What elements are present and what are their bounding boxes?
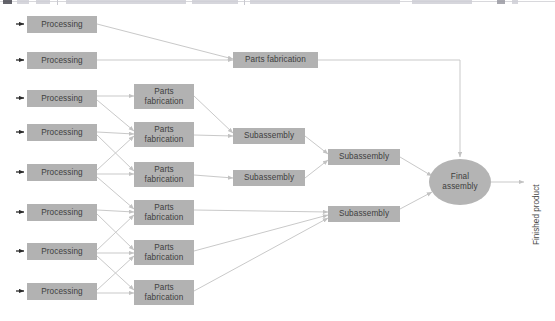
- node-processing-1[interactable]: Processing: [27, 16, 97, 33]
- node-processing-2[interactable]: Processing: [27, 52, 97, 69]
- node-subassembly-3[interactable]: Subassembly: [328, 149, 400, 165]
- node-processing-6[interactable]: Processing: [27, 204, 97, 221]
- node-parts-fabrication-6[interactable]: Parts fabrication: [134, 280, 194, 305]
- node-processing-4[interactable]: Processing: [27, 124, 97, 141]
- node-processing-7[interactable]: Processing: [27, 243, 97, 260]
- node-processing-3[interactable]: Processing: [27, 90, 97, 107]
- node-parts-fabrication-5[interactable]: Parts fabrication: [134, 240, 194, 265]
- label-finished-product: Finished product: [532, 184, 541, 245]
- node-processing-8[interactable]: Processing: [27, 283, 97, 300]
- node-final-assembly[interactable]: Final assembly: [429, 159, 491, 205]
- node-subassembly-2[interactable]: Subassembly: [233, 170, 305, 186]
- node-parts-fabrication-4[interactable]: Parts fabrication: [134, 200, 194, 225]
- node-parts-fabrication-1[interactable]: Parts fabrication: [134, 84, 194, 109]
- node-parts-fabrication-2[interactable]: Parts fabrication: [134, 122, 194, 147]
- diagram-canvas: Processing Processing Processing Process…: [0, 0, 555, 321]
- input-marker-group: [16, 24, 24, 291]
- node-subassembly-1[interactable]: Subassembly: [233, 128, 305, 144]
- node-parts-fabrication-top[interactable]: Parts fabrication: [233, 52, 318, 68]
- node-parts-fabrication-3[interactable]: Parts fabrication: [134, 162, 194, 187]
- node-processing-5[interactable]: Processing: [27, 164, 97, 181]
- node-subassembly-4[interactable]: Subassembly: [328, 206, 400, 222]
